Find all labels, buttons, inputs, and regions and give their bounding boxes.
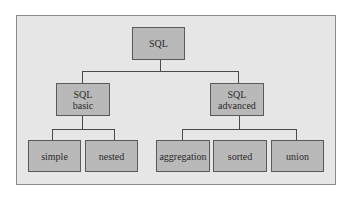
connector (52, 129, 53, 140)
node-nested: nested (85, 140, 138, 172)
node-sql-basic: SQL basic (56, 83, 110, 116)
connector (82, 116, 83, 129)
node-sql-advanced: SQL advanced (210, 83, 264, 116)
node-label: nested (99, 151, 125, 162)
node-label: sorted (228, 151, 252, 162)
node-simple: simple (28, 140, 81, 172)
connector (160, 60, 161, 71)
node-label-line1: SQL (74, 89, 93, 100)
node-label-line2: basic (73, 100, 94, 111)
node-label-line1: SQL (228, 89, 247, 100)
connector (238, 71, 239, 83)
connector (239, 116, 240, 129)
node-sorted: sorted (213, 140, 267, 172)
node-label-line2: advanced (218, 100, 256, 111)
connector (296, 129, 297, 140)
node-label: aggregation (159, 151, 206, 162)
node-aggregation: aggregation (156, 140, 210, 172)
node-label: SQL (149, 38, 168, 49)
connector (114, 129, 115, 140)
connector (182, 129, 297, 130)
connector (82, 71, 239, 72)
node-label: union (286, 151, 309, 162)
connector (182, 129, 183, 140)
connector (52, 129, 115, 130)
node-union: union (271, 140, 324, 172)
connector (82, 71, 83, 83)
node-label: simple (41, 151, 68, 162)
node-sql-root: SQL (132, 27, 185, 60)
